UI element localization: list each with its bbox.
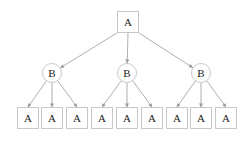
node-label: A xyxy=(124,16,132,28)
tree-diagram: ABBBAAAAAAAAA xyxy=(0,0,250,142)
b-node: B xyxy=(191,63,211,83)
node-label: A xyxy=(197,112,205,124)
edge-arrow xyxy=(139,33,193,68)
root-node: A xyxy=(117,11,139,33)
leaf-node: A xyxy=(41,107,63,129)
leaf-node: A xyxy=(66,107,88,129)
leaf-node: A xyxy=(91,107,113,129)
node-label: B xyxy=(48,67,55,79)
edge-arrow xyxy=(61,33,117,68)
node-label: A xyxy=(148,112,156,124)
leaf-node: A xyxy=(116,107,138,129)
b-node: B xyxy=(117,63,137,83)
edge-arrow xyxy=(102,81,121,107)
edge-arrow xyxy=(127,33,128,63)
leaf-node: A xyxy=(166,107,188,129)
node-label: A xyxy=(222,112,230,124)
leaf-node: A xyxy=(215,107,237,129)
leaf-node: A xyxy=(17,107,39,129)
edge-arrow xyxy=(28,81,46,107)
node-label: A xyxy=(73,112,81,124)
node-label: A xyxy=(173,112,181,124)
edge-arrow xyxy=(133,81,152,107)
node-label: A xyxy=(48,112,56,124)
leaf-node: A xyxy=(190,107,212,129)
leaf-node: A xyxy=(141,107,163,129)
node-label: A xyxy=(24,112,32,124)
edge-arrow xyxy=(177,81,195,107)
node-label: A xyxy=(123,112,131,124)
node-label: B xyxy=(197,67,204,79)
edge-arrow xyxy=(207,81,226,107)
b-node: B xyxy=(42,63,62,83)
node-label: A xyxy=(98,112,106,124)
edge-arrow xyxy=(58,81,77,107)
node-label: B xyxy=(123,67,130,79)
